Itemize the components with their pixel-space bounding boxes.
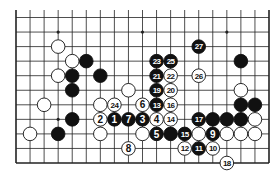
move-number-label: 24: [111, 101, 120, 110]
star-point-icon: [141, 30, 144, 33]
white-stone-icon: [94, 98, 108, 112]
stone-white-move-4: 4: [150, 113, 164, 127]
move-number-label: 10: [209, 144, 218, 153]
white-stone-icon: [136, 127, 150, 141]
black-stone-icon: [248, 98, 262, 112]
black-stone-icon: [65, 69, 79, 83]
white-stone-icon: [248, 113, 262, 127]
move-number-label: 27: [195, 42, 204, 51]
white-stone-icon: [23, 127, 37, 141]
black-stone-icon: [234, 113, 248, 127]
stone-black-move-5: 5: [150, 127, 164, 141]
white-stone-icon: [94, 127, 108, 141]
move-number-label: 3: [140, 114, 146, 125]
stone-black-move-3: 3: [136, 113, 150, 127]
white-stone-icon: [248, 127, 262, 141]
stone-white-move-14: 14: [164, 113, 178, 127]
stone-black-move-15: 15: [178, 127, 192, 141]
move-number-label: 1: [112, 114, 118, 125]
stone-white: [94, 98, 108, 112]
stone-white: [51, 40, 65, 54]
move-number-label: 21: [153, 72, 162, 81]
move-number-label: 15: [181, 130, 190, 139]
stone-white: [51, 69, 65, 83]
stone-black-move-13: 13: [150, 98, 164, 112]
stone-black: [164, 127, 178, 141]
stone-white-move-24: 24: [108, 98, 122, 112]
stone-black-move-19: 19: [150, 83, 164, 97]
move-number-label: 4: [154, 114, 160, 125]
stone-white-move-20: 20: [164, 83, 178, 97]
stone-black: [79, 54, 93, 68]
stone-black-move-7: 7: [122, 113, 136, 127]
stone-white: [65, 54, 79, 68]
stone-black: [234, 113, 248, 127]
move-number-label: 7: [126, 114, 132, 125]
stone-black-move-23: 23: [150, 54, 164, 68]
black-stone-icon: [234, 98, 248, 112]
white-stone-icon: [122, 83, 136, 97]
move-number-label: 6: [140, 99, 146, 110]
stone-black-move-25: 25: [164, 54, 178, 68]
white-stone-icon: [234, 83, 248, 97]
white-stone-icon: [51, 40, 65, 54]
move-number-label: 22: [167, 72, 176, 81]
stone-black-move-17: 17: [192, 113, 206, 127]
black-stone-icon: [164, 127, 178, 141]
stone-black: [234, 98, 248, 112]
move-number-label: 17: [195, 115, 204, 124]
stone-white: [192, 127, 206, 141]
move-number-label: 11: [195, 144, 203, 153]
stone-black: [51, 127, 65, 141]
black-stone-icon: [51, 127, 65, 141]
move-number-label: 18: [223, 159, 232, 168]
stone-black: [206, 113, 220, 127]
white-stone-icon: [220, 127, 234, 141]
white-stone-icon: [37, 98, 51, 112]
stone-black: [248, 98, 262, 112]
move-number-label: 8: [126, 143, 132, 154]
stone-white-move-16: 16: [164, 98, 178, 112]
stone-black-move-9: 9: [206, 127, 220, 141]
stone-black: [65, 83, 79, 97]
white-stone-icon: [192, 127, 206, 141]
black-stone-icon: [65, 113, 79, 127]
stone-white: [248, 127, 262, 141]
stone-white: [122, 83, 136, 97]
stone-white-move-26: 26: [192, 69, 206, 83]
stone-white-move-12: 12: [178, 142, 192, 156]
stone-white-move-2: 2: [94, 113, 108, 127]
move-number-label: 14: [167, 115, 176, 124]
move-number-label: 2: [98, 114, 104, 125]
black-stone-icon: [79, 54, 93, 68]
stone-white: [248, 113, 262, 127]
stone-black-move-1: 1: [108, 113, 122, 127]
move-number-label: 12: [181, 144, 190, 153]
move-number-label: 25: [167, 57, 176, 66]
move-number-label: 26: [195, 72, 204, 81]
white-stone-icon: [65, 54, 79, 68]
stone-white-move-10: 10: [206, 142, 220, 156]
move-number-label: 5: [154, 129, 160, 140]
stone-black-move-21: 21: [150, 69, 164, 83]
stone-white-move-22: 22: [164, 69, 178, 83]
stone-black: [65, 113, 79, 127]
move-number-label: 20: [167, 86, 176, 95]
stone-white-move-18: 18: [220, 156, 234, 170]
stone-black-move-27: 27: [192, 40, 206, 54]
stone-black: [94, 69, 108, 83]
move-number-label: 23: [153, 57, 162, 66]
stone-white-move-8: 8: [122, 142, 136, 156]
stone-white-move-6: 6: [136, 98, 150, 112]
stone-white: [234, 83, 248, 97]
stone-black: [220, 113, 234, 127]
black-stone-icon: [234, 54, 248, 68]
move-number-label: 9: [210, 129, 216, 140]
stone-white: [94, 127, 108, 141]
move-number-label: 16: [167, 101, 176, 110]
star-point-icon: [57, 118, 60, 121]
star-point-icon: [225, 30, 228, 33]
stone-white: [234, 127, 248, 141]
move-number-label: 13: [153, 101, 162, 110]
stone-black: [234, 54, 248, 68]
